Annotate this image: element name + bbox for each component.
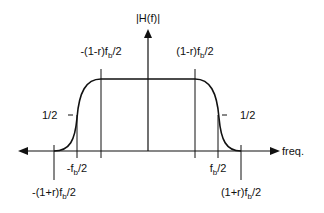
- raised-cosine-diagram: |H(f)| freq. 1/2 1/2 -(1-r)fb/2 (1-r)fb/…: [0, 0, 324, 213]
- up-arrow-icon: [144, 29, 152, 38]
- label-pos-mid: fb/2: [210, 162, 227, 177]
- label-neg-inner: -(1-r)fb/2: [80, 45, 121, 60]
- label-neg-mid: -fb/2: [67, 162, 87, 177]
- half-label-left: 1/2: [42, 109, 57, 121]
- y-axis-label: |H(f)|: [136, 12, 160, 24]
- label-neg-outer: -(1+r)fb/2: [32, 186, 76, 201]
- left-arrow-icon: [18, 147, 28, 155]
- x-axis-label: freq.: [282, 145, 304, 157]
- label-pos-inner: (1-r)fb/2: [176, 45, 213, 60]
- half-label-right: 1/2: [240, 109, 255, 121]
- label-pos-outer: (1+r)fb/2: [221, 186, 261, 201]
- right-arrow-icon: [270, 147, 280, 155]
